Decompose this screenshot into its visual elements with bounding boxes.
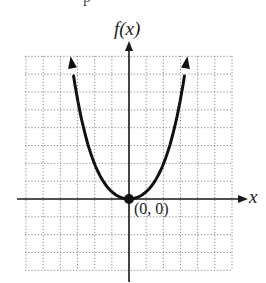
y-axis-label: f(x) xyxy=(114,18,140,40)
y-axis-arrow-icon xyxy=(125,41,133,51)
curve-right-arrow-icon xyxy=(181,56,190,69)
graph-canvas xyxy=(0,0,266,283)
y-axis xyxy=(125,41,133,282)
cropped-text-fragment: p xyxy=(83,0,91,6)
curve-left-arrow-icon xyxy=(68,56,77,69)
x-axis-arrow-icon xyxy=(238,195,248,203)
origin-point xyxy=(124,194,134,204)
origin-point-label: (0, 0) xyxy=(134,200,169,218)
x-axis-label: x xyxy=(249,186,257,208)
